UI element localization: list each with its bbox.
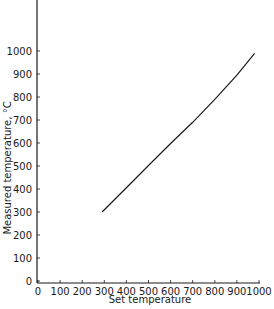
y-tick-label: 300 xyxy=(13,207,32,218)
y-tick-label: 500 xyxy=(13,161,32,172)
x-tick-label: 1000 xyxy=(246,286,271,297)
x-tick-label: 900 xyxy=(227,286,246,297)
y-tick-label: 1000 xyxy=(7,46,32,57)
y-tick-label: 600 xyxy=(13,138,32,149)
x-tick-label: 200 xyxy=(73,286,92,297)
y-tick-label: 800 xyxy=(13,92,32,103)
y-axis-label: Measured temperature, °C xyxy=(2,101,13,234)
y-tick-label: 700 xyxy=(13,115,32,126)
x-axis-label: Set temperature xyxy=(109,294,191,305)
y-tick-label: 900 xyxy=(13,69,32,80)
data-line xyxy=(102,53,255,212)
y-tick-label: 400 xyxy=(13,184,32,195)
y-tick-label: 0 xyxy=(26,276,32,287)
chart: 01002003004005006007008009001000 0100200… xyxy=(0,0,274,309)
x-tick-label: 0 xyxy=(35,286,41,297)
x-tick-label: 100 xyxy=(51,286,70,297)
y-tick-label: 100 xyxy=(13,253,32,264)
x-tick-label: 800 xyxy=(205,286,224,297)
y-tick-label: 200 xyxy=(13,230,32,241)
